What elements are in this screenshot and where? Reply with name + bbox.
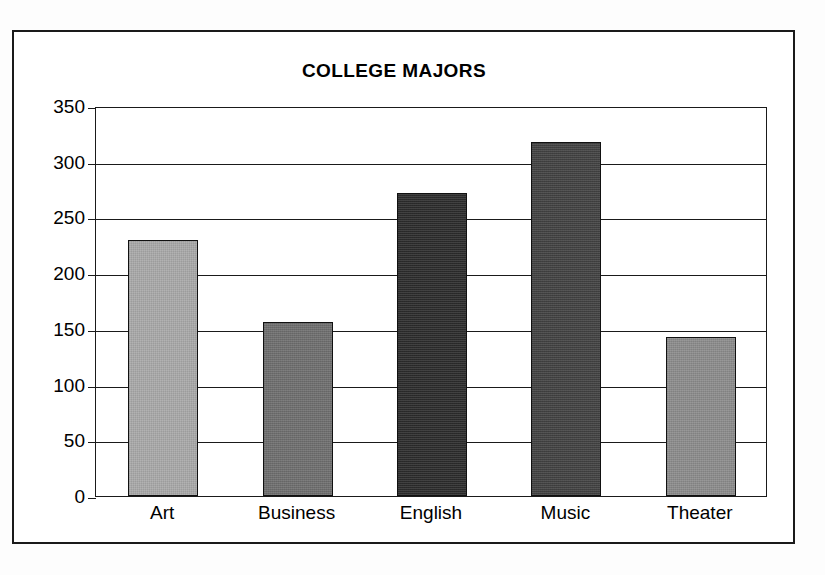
page-background: COLLEGE MAJORS 050100150200250300350 Art… xyxy=(0,0,825,575)
chart-figure-frame: COLLEGE MAJORS 050100150200250300350 Art… xyxy=(12,30,795,544)
y-tick-label-150: 150 xyxy=(25,319,85,341)
y-tickmark-250 xyxy=(88,219,96,220)
y-tickmark-100 xyxy=(88,387,96,388)
bar-theater[interactable] xyxy=(666,337,736,496)
bar-business[interactable] xyxy=(263,322,333,496)
y-tickmark-50 xyxy=(88,442,96,443)
y-tickmark-350 xyxy=(88,108,96,109)
y-axis-tick-labels: 050100150200250300350 xyxy=(19,107,85,497)
x-tick-label-theater: Theater xyxy=(633,502,767,524)
y-tickmark-200 xyxy=(88,275,96,276)
x-tick-label-english: English xyxy=(364,502,498,524)
x-tick-label-business: Business xyxy=(229,502,363,524)
x-tick-label-music: Music xyxy=(498,502,632,524)
bar-music[interactable] xyxy=(531,142,601,496)
y-tick-label-250: 250 xyxy=(25,207,85,229)
bar-english[interactable] xyxy=(397,193,467,496)
y-tick-label-100: 100 xyxy=(25,375,85,397)
bar-art[interactable] xyxy=(128,240,198,496)
gridline-300 xyxy=(96,164,766,165)
x-tick-label-art: Art xyxy=(95,502,229,524)
y-tickmark-300 xyxy=(88,164,96,165)
y-tickmark-150 xyxy=(88,331,96,332)
y-tick-label-350: 350 xyxy=(25,96,85,118)
chart-title: COLLEGE MAJORS xyxy=(14,60,774,82)
y-tick-label-200: 200 xyxy=(25,263,85,285)
y-tick-label-0: 0 xyxy=(25,486,85,508)
y-tickmark-0 xyxy=(88,498,96,499)
plot-area xyxy=(95,107,767,497)
x-axis-tick-labels: ArtBusinessEnglishMusicTheater xyxy=(95,502,767,532)
y-tick-label-300: 300 xyxy=(25,152,85,174)
y-tick-label-50: 50 xyxy=(25,430,85,452)
